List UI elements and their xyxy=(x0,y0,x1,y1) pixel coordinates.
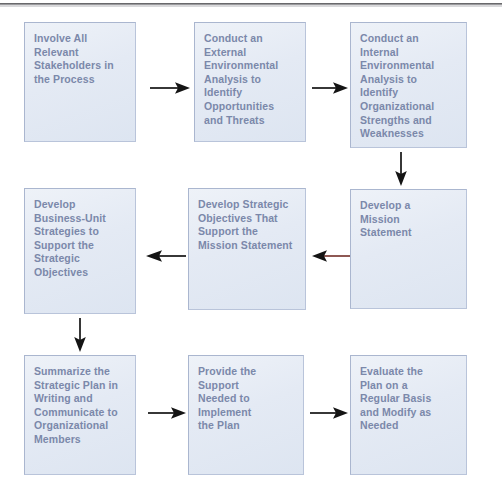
node-label: Develop Strategic Objectives That Suppor… xyxy=(189,189,305,252)
arrow-internal-analysis-to-mission-statement xyxy=(393,152,409,186)
arrow-strategic-objectives-to-business-unit-strategies xyxy=(146,248,186,264)
node-label: Develop Business-Unit Strategies to Supp… xyxy=(25,189,135,280)
node-label: Evaluate the Plan on a Regular Basis and… xyxy=(351,356,466,433)
node-develop-strategic-objectives[interactable]: Develop Strategic Objectives That Suppor… xyxy=(188,188,306,310)
node-provide-support-to-implement-plan[interactable]: Provide the Support Needed to Implement … xyxy=(188,355,304,475)
arrow-external-to-internal-analysis xyxy=(312,80,348,96)
node-summarize-strategic-plan[interactable]: Summarize the Strategic Plan in Writing … xyxy=(24,355,136,475)
arrow-summarize-plan-to-provide-support xyxy=(148,405,186,421)
page-top-rule-shadow xyxy=(0,5,502,7)
node-label: Summarize the Strategic Plan in Writing … xyxy=(25,356,135,447)
arrow-provide-support-to-evaluate-plan xyxy=(310,405,348,421)
node-label: Develop a Mission Statement xyxy=(351,190,466,240)
flowchart-canvas: Involve All Relevant Stakeholders in the… xyxy=(0,0,502,496)
node-label: Provide the Support Needed to Implement … xyxy=(189,356,303,433)
arrow-mission-statement-to-strategic-objectives xyxy=(312,248,350,264)
node-conduct-internal-environmental-analysis[interactable]: Conduct an Internal Environmental Analys… xyxy=(350,22,467,148)
node-conduct-external-environmental-analysis[interactable]: Conduct an External Environmental Analys… xyxy=(194,22,306,142)
node-label: Conduct an Internal Environmental Analys… xyxy=(351,23,466,141)
node-label: Involve All Relevant Stakeholders in the… xyxy=(25,23,135,86)
node-evaluate-plan-regularly[interactable]: Evaluate the Plan on a Regular Basis and… xyxy=(350,355,467,475)
arrow-business-unit-strategies-to-summarize-plan xyxy=(72,318,88,352)
node-develop-mission-statement[interactable]: Develop a Mission Statement xyxy=(350,189,467,309)
node-label: Conduct an External Environmental Analys… xyxy=(195,23,305,127)
node-develop-business-unit-strategies[interactable]: Develop Business-Unit Strategies to Supp… xyxy=(24,188,136,314)
node-involve-all-relevant-stakeholders[interactable]: Involve All Relevant Stakeholders in the… xyxy=(24,22,136,142)
arrow-stakeholders-to-external-analysis xyxy=(150,80,190,96)
